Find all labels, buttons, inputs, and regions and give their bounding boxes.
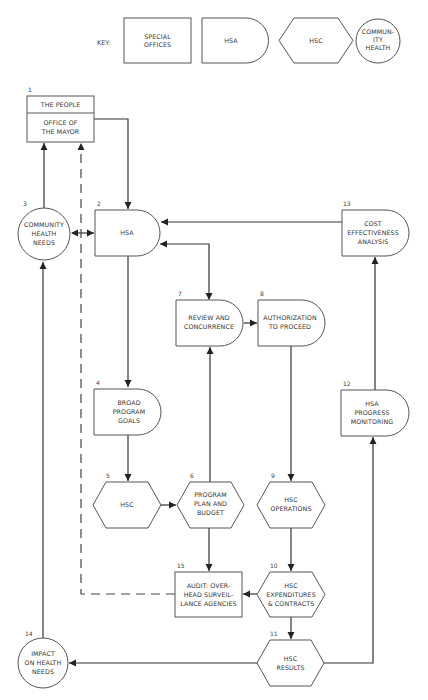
svg-text:7: 7 bbox=[178, 290, 182, 297]
svg-text:AUTHORIZATION: AUTHORIZATION bbox=[263, 314, 317, 321]
arrowhead-to-1-dashed-icon bbox=[78, 143, 85, 150]
node-8-authorization: 8 AUTHORIZATION TO PROCEED bbox=[258, 290, 325, 346]
svg-text:EXPENDITURES: EXPENDITURES bbox=[266, 591, 316, 598]
svg-text:NEEDS: NEEDS bbox=[32, 668, 54, 675]
svg-text:2: 2 bbox=[97, 200, 101, 207]
svg-text:EFFECTIVENESS: EFFECTIVENESS bbox=[347, 229, 399, 236]
edge-11-to-12 bbox=[324, 437, 373, 663]
svg-text:ITY: ITY bbox=[373, 36, 383, 43]
svg-text:HSC: HSC bbox=[284, 655, 298, 662]
svg-text:HEAD SURVEIL-: HEAD SURVEIL- bbox=[184, 591, 234, 598]
svg-text:PLAN AND: PLAN AND bbox=[194, 500, 227, 507]
key-legend: KEY: SPECIAL OFFICES HSA HSC COMMUN- ITY… bbox=[97, 18, 400, 63]
svg-text:ON HEALTH: ON HEALTH bbox=[25, 659, 62, 666]
svg-text:HSA: HSA bbox=[120, 229, 134, 236]
svg-text:COMMUN-: COMMUN- bbox=[362, 28, 395, 35]
svg-text:13: 13 bbox=[343, 200, 351, 207]
svg-text:COMMUNITY: COMMUNITY bbox=[24, 221, 64, 228]
flow-diagram: KEY: SPECIAL OFFICES HSA HSC COMMUN- ITY… bbox=[0, 0, 428, 700]
node-1-people-mayor: 1 THE PEOPLE OFFICE OF THE MAYOR bbox=[27, 86, 94, 142]
svg-text:OPERATIONS: OPERATIONS bbox=[270, 505, 311, 512]
svg-text:5: 5 bbox=[106, 472, 110, 479]
node-5-hsc: 5 HSC bbox=[93, 472, 161, 528]
svg-text:HEALTH: HEALTH bbox=[32, 230, 57, 237]
svg-text:HSC: HSC bbox=[284, 496, 298, 503]
svg-text:1: 1 bbox=[28, 86, 32, 93]
svg-text:HSC: HSC bbox=[309, 37, 323, 44]
svg-text:REVIEW AND: REVIEW AND bbox=[188, 314, 230, 321]
arrowhead-to-3-icon bbox=[71, 230, 78, 237]
node-1-top-label: THE PEOPLE bbox=[40, 101, 81, 108]
svg-text:& CONTRACTS: & CONTRACTS bbox=[268, 600, 314, 607]
svg-text:OFFICES: OFFICES bbox=[144, 41, 171, 48]
node-3-community-health-needs: 3 COMMUNITY HEALTH NEEDS bbox=[18, 200, 70, 260]
svg-text:RESULTS: RESULTS bbox=[276, 664, 304, 671]
svg-text:PROGRESS: PROGRESS bbox=[354, 409, 389, 416]
key-special-offices: SPECIAL OFFICES bbox=[124, 18, 191, 63]
svg-text:9: 9 bbox=[271, 472, 275, 479]
svg-text:4: 4 bbox=[96, 379, 100, 386]
svg-text:AUDIT: OVER-: AUDIT: OVER- bbox=[187, 582, 231, 589]
svg-text:PROGRAM: PROGRAM bbox=[194, 491, 227, 498]
svg-text:ANALYSIS: ANALYSIS bbox=[358, 238, 389, 245]
svg-text:8: 8 bbox=[260, 290, 264, 297]
svg-text:THE MAYOR: THE MAYOR bbox=[41, 128, 80, 135]
svg-text:OFFICE OF: OFFICE OF bbox=[44, 119, 78, 126]
edge-2-to-7 bbox=[160, 244, 209, 299]
key-community-health: COMMUN- ITY HEALTH bbox=[356, 19, 400, 63]
svg-text:HSC: HSC bbox=[284, 582, 298, 589]
svg-text:3: 3 bbox=[23, 200, 27, 207]
key-hsa: HSA bbox=[202, 18, 269, 63]
svg-text:15: 15 bbox=[177, 562, 185, 569]
svg-text:HSA: HSA bbox=[365, 400, 379, 407]
svg-text:SPECIAL: SPECIAL bbox=[144, 33, 171, 40]
svg-text:BUDGET: BUDGET bbox=[197, 509, 224, 516]
arrowhead-to-7-icon bbox=[206, 293, 213, 300]
svg-text:COST: COST bbox=[364, 220, 382, 227]
key-hsc: HSC bbox=[279, 18, 353, 63]
svg-text:HSC: HSC bbox=[120, 501, 134, 508]
svg-text:14: 14 bbox=[25, 630, 33, 637]
svg-text:TO PROCEED: TO PROCEED bbox=[268, 323, 311, 330]
svg-text:HSA: HSA bbox=[224, 37, 238, 44]
svg-text:11: 11 bbox=[270, 630, 278, 637]
svg-text:CONCURRENCE: CONCURRENCE bbox=[184, 323, 234, 330]
svg-text:GOALS: GOALS bbox=[118, 417, 140, 424]
svg-text:IMPACT: IMPACT bbox=[31, 650, 55, 657]
node-13-cost-effectiveness: 13 COST EFFECTIVENESS ANALYSIS bbox=[342, 200, 409, 256]
key-label: KEY: bbox=[97, 39, 111, 47]
svg-text:LANCE AGENCIES: LANCE AGENCIES bbox=[180, 600, 236, 607]
svg-text:BROAD: BROAD bbox=[117, 399, 140, 406]
svg-text:NEEDS: NEEDS bbox=[33, 239, 55, 246]
svg-text:HEALTH: HEALTH bbox=[366, 44, 391, 51]
svg-text:PROGRAM: PROGRAM bbox=[113, 408, 146, 415]
svg-text:12: 12 bbox=[343, 380, 351, 387]
edge-1-to-2 bbox=[94, 119, 128, 209]
svg-text:6: 6 bbox=[190, 472, 194, 479]
svg-text:10: 10 bbox=[270, 562, 278, 569]
svg-text:MONITORING: MONITORING bbox=[351, 418, 394, 425]
node-14-impact-health-needs: 14 IMPACT ON HEALTH NEEDS bbox=[18, 630, 68, 688]
node-4-broad-program-goals: 4 BROAD PROGRAM GOALS bbox=[94, 379, 161, 435]
